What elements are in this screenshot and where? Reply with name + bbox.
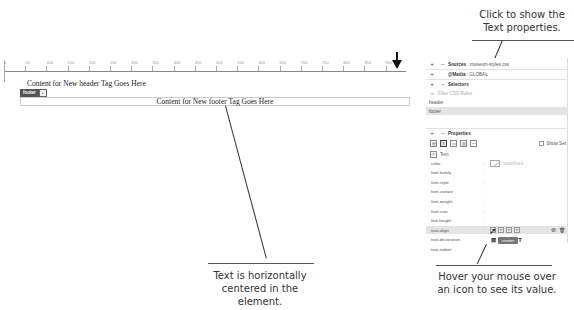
media-label: @Media — [448, 72, 466, 77]
callout-rule — [436, 265, 552, 266]
callout-line-2: an icon to see its value. — [432, 283, 562, 296]
selector-item-footer[interactable]: footer — [426, 107, 568, 115]
separator: : — [484, 199, 490, 204]
property-row-font-style[interactable]: font-style: — [426, 178, 568, 186]
callout-hover-icon: Hover your mouse over an icon to see its… — [432, 270, 562, 296]
footer-tag-dropdown[interactable]: + — [39, 89, 47, 97]
ruler-tick: 100 — [46, 60, 53, 65]
text-section-icon: T — [430, 151, 437, 158]
property-category-bar: ▤ T ▭ ▥ ⋯ Show Set — [426, 139, 568, 147]
selector-name: header — [426, 100, 443, 105]
disable-property-icon[interactable]: ⊘ — [550, 227, 556, 233]
search-icon: ⌕ — [426, 90, 438, 97]
add-property-icon[interactable]: + — [426, 130, 438, 136]
callout-line-1: Click to show the — [470, 8, 574, 21]
header-element-text[interactable]: Content for New header Tag Goes Here — [27, 79, 146, 88]
sources-header[interactable]: + − Sources : museum-styles.css — [426, 60, 568, 68]
horizontal-ruler[interactable]: 0501001502002503003504004505005506006507… — [4, 60, 406, 72]
property-row-font-weight[interactable]: font-weight: — [426, 197, 568, 205]
property-row-font-family[interactable]: font-family: — [426, 169, 568, 177]
ruler-tick: 200 — [89, 60, 96, 65]
filter-css-rules[interactable]: ⌕ Filter CSS Rules — [426, 89, 568, 97]
remove-property-icon[interactable]: − — [438, 130, 448, 136]
text-section-title: T Text — [426, 150, 568, 158]
property-name: line-height — [426, 218, 484, 223]
color-swatch[interactable] — [490, 160, 500, 167]
property-row-text-indent[interactable]: text-indent: — [426, 245, 568, 253]
filter-input[interactable]: Filter CSS Rules — [438, 91, 472, 96]
ruler-marker-arrow-icon[interactable] — [392, 60, 402, 69]
ruler-tick: 700 — [301, 60, 308, 65]
align-right-icon[interactable]: ≡ — [506, 227, 512, 233]
property-name: font-variant — [426, 189, 484, 194]
property-name: color — [426, 161, 484, 166]
section-title: Text — [440, 152, 448, 157]
separator: : — [484, 189, 490, 194]
ruler-tick: 650 — [280, 60, 287, 65]
ruler-tick: 300 — [131, 60, 138, 65]
more-icon[interactable]: ⋯ — [470, 140, 477, 147]
none-icon[interactable]: ⊠ — [490, 237, 496, 243]
selectors-header[interactable]: + − Selectors — [426, 80, 568, 88]
delete-property-icon[interactable]: 🗑 — [559, 227, 565, 233]
color-value[interactable]: undefined — [503, 161, 523, 166]
sources-value: museum-styles.css — [470, 62, 509, 67]
property-name: text-indent — [426, 247, 484, 252]
design-view[interactable]: 0501001502002503003504004505005506006507… — [0, 58, 426, 268]
align-center-icon[interactable]: ≡ — [498, 227, 504, 233]
ruler-tick: 800 — [343, 60, 350, 65]
add-selector-icon[interactable]: + — [426, 81, 438, 87]
footer-tag-selector[interactable]: footer + — [20, 89, 47, 97]
selectors-label: Selectors — [448, 82, 469, 87]
property-name: font-family — [426, 170, 484, 175]
remove-selector-icon[interactable]: − — [438, 81, 448, 87]
separator: : — [484, 209, 490, 214]
align-justify-icon[interactable]: ≡ — [514, 227, 520, 233]
callout-line-1: Hover your mouse over — [432, 270, 562, 283]
add-media-icon[interactable]: + — [426, 71, 438, 77]
media-header[interactable]: + @Media : GLOBAL — [426, 70, 568, 78]
callout-text-centered: Text is horizontally centered in the ele… — [200, 269, 320, 308]
ruler-tick: 450 — [195, 60, 202, 65]
callout-line-2: Text properties. — [470, 21, 574, 34]
footer-tag-label[interactable]: footer — [20, 89, 39, 97]
callout-rule — [208, 263, 314, 264]
property-name: text-align — [426, 228, 484, 233]
properties-header[interactable]: + − Properties — [426, 129, 568, 137]
selector-name: footer — [426, 109, 441, 114]
add-source-icon[interactable]: + — [426, 61, 438, 67]
property-row-font-variant[interactable]: font-variant: — [426, 188, 568, 196]
ruler-tick: 550 — [237, 60, 244, 65]
text-icon[interactable]: T — [440, 140, 447, 147]
ruler-tick: 150 — [68, 60, 75, 65]
mouse-pointer-icon: ➚ — [489, 227, 497, 236]
property-row-text-align[interactable]: text-align:≡≡≡≡⊘🗑 — [426, 226, 568, 234]
ruler-tick: 500 — [216, 60, 223, 65]
border-icon[interactable]: ▭ — [450, 140, 457, 147]
separator: : — [484, 218, 490, 223]
background-icon[interactable]: ▥ — [460, 140, 467, 147]
remove-source-icon[interactable]: − — [438, 61, 448, 67]
property-row-color[interactable]: color:undefined — [426, 159, 568, 167]
callout-line-1: Text is horizontally — [200, 269, 320, 282]
footer-element[interactable]: Content for New footer Tag Goes Here — [20, 97, 410, 106]
property-name: font-style — [426, 180, 484, 185]
properties-label: Properties — [448, 131, 471, 136]
media-value: GLOBAL — [469, 72, 487, 77]
ruler-tick: 50 — [25, 60, 29, 65]
ruler-tick: 350 — [152, 60, 159, 65]
show-set-checkbox[interactable] — [539, 141, 544, 146]
ruler-tick: 400 — [174, 60, 181, 65]
property-row-font-size[interactable]: font-size: — [426, 207, 568, 215]
property-name: font-size — [426, 209, 484, 214]
sources-label: Sources — [448, 62, 466, 67]
ruler-tick: 250 — [110, 60, 117, 65]
property-name: text-decoration — [426, 237, 484, 242]
selector-item-header[interactable]: header — [426, 98, 568, 106]
property-row-text-decoration[interactable]: text-decoration:⊠TTT — [426, 236, 568, 244]
callout-line-2: centered in the element. — [200, 282, 320, 308]
ruler-tick: 850 — [364, 60, 371, 65]
property-name: font-weight — [426, 199, 484, 204]
layout-icon[interactable]: ▤ — [430, 140, 437, 147]
property-row-line-height[interactable]: line-height: — [426, 217, 568, 225]
